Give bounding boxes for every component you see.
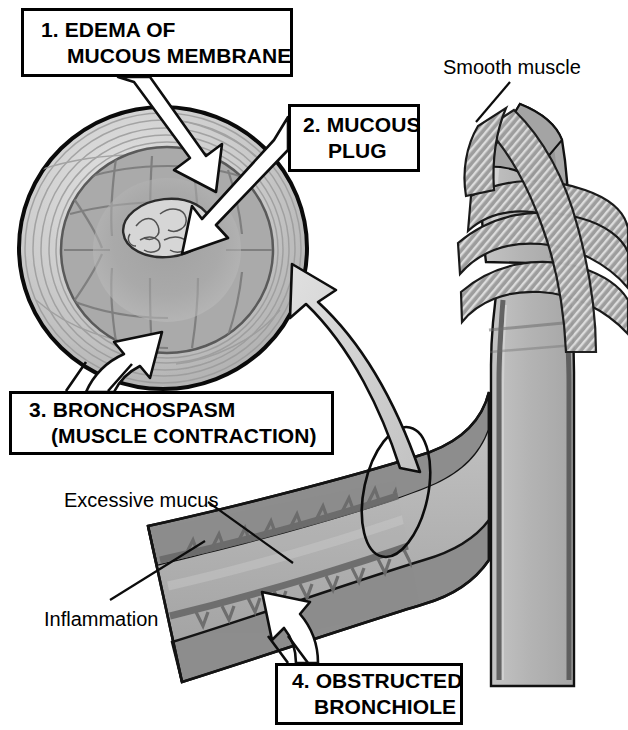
- callout-bronchospasm-line2: (MUSCLE CONTRACTION): [29, 423, 331, 449]
- callout-bronchospasm-line1: 3. BRONCHOSPASM: [29, 397, 331, 423]
- callout-mucous-plug-line2: PLUG: [303, 138, 417, 164]
- callout-mucous-plug-line1: 2. MUCOUS: [303, 112, 417, 138]
- label-inflammation: Inflammation: [44, 608, 159, 631]
- callout-obstructed-line1: 4. OBSTRUCTED: [292, 668, 460, 694]
- asthma-diagram: 1. EDEMA OF MUCOUS MEMBRANE 2. MUCOUS PL…: [0, 0, 628, 730]
- trachea-bronchus-structure: [458, 104, 628, 686]
- label-excessive-mucus: Excessive mucus: [64, 489, 219, 512]
- callout-box-edema[interactable]: 1. EDEMA OF MUCOUS MEMBRANE: [21, 8, 293, 77]
- callout-box-obstructed-bronchiole[interactable]: 4. OBSTRUCTED BRONCHIOLE: [275, 663, 463, 725]
- callout-edema-line2: MUCOUS MEMBRANE: [41, 43, 290, 69]
- callout-box-mucous-plug[interactable]: 2. MUCOUS PLUG: [288, 104, 420, 172]
- callout-edema-line1: 1. EDEMA OF: [41, 17, 290, 43]
- label-smooth-muscle: Smooth muscle: [443, 56, 581, 79]
- callout-box-bronchospasm[interactable]: 3. BRONCHOSPASM (MUSCLE CONTRACTION): [9, 391, 334, 455]
- callout-obstructed-line2: BRONCHIOLE: [292, 694, 460, 720]
